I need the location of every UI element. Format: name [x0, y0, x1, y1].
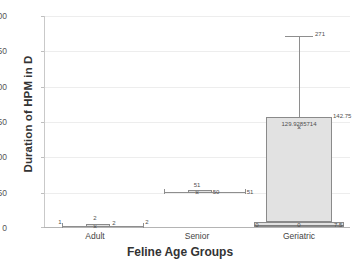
- x-category-senior: Senior: [185, 231, 210, 241]
- geriatric-box: [266, 117, 332, 223]
- plot-area: × 1 2 2 2 × 51 50 51 ×: [44, 16, 350, 228]
- y-tick-label-200: 200: [0, 82, 7, 92]
- x-category-adult: Adult: [85, 231, 104, 241]
- geriatric-label-q3: 142.75: [333, 113, 351, 119]
- y-tick-label-50: 50: [0, 188, 7, 198]
- geriatric-label-mean: 129.9285714: [281, 121, 316, 127]
- geriatric-label-q1: 7.5: [334, 222, 342, 228]
- box-group-geriatric: × 271 142.75 129.9285714 7.5 0 0: [44, 16, 350, 228]
- geriatric-label-max: 271: [315, 31, 325, 37]
- x-category-geriatric: Geriatric: [283, 231, 315, 241]
- y-tick-label-0: 0: [0, 223, 7, 233]
- y-tick-label-250: 250: [0, 46, 7, 56]
- y-tick-label-100: 100: [0, 152, 7, 162]
- box-plot-chart: Duration of HPM in D Feline Age Groups 3…: [0, 0, 360, 266]
- geriatric-label-min: 0: [255, 222, 258, 228]
- x-axis-title: Feline Age Groups: [0, 245, 360, 259]
- y-tick-label-300: 300: [0, 11, 7, 21]
- y-axis-title: Duration of HPM in D: [22, 24, 34, 204]
- geriatric-max-cap: [285, 36, 313, 37]
- geriatric-upper-whisker: [299, 36, 300, 117]
- geriatric-label-median: 0: [297, 222, 300, 228]
- y-tick-label-150: 150: [0, 117, 7, 127]
